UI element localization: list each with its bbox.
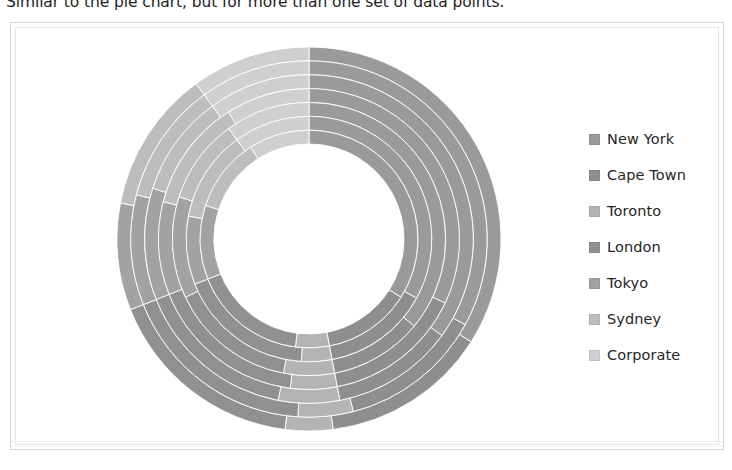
donut-segment[interactable]: [295, 332, 329, 348]
legend-item-label: Tokyo: [607, 275, 648, 291]
legend-item[interactable]: London: [589, 229, 719, 265]
donut-segment[interactable]: [301, 346, 332, 362]
legend-item[interactable]: Sydney: [589, 301, 719, 337]
legend-item[interactable]: Tokyo: [589, 265, 719, 301]
legend-item-label: New York: [607, 131, 674, 147]
chart-plot-area: New YorkCape TownTorontoLondonTokyoSydne…: [11, 23, 725, 451]
legend-item-label: Cape Town: [607, 167, 686, 183]
legend-swatch-icon: [589, 278, 600, 289]
figure-frame: New YorkCape TownTorontoLondonTokyoSydne…: [10, 22, 724, 450]
caption-text: Similar to the pie chart, but for more t…: [6, 0, 504, 11]
legend-swatch-icon: [589, 242, 600, 253]
donut-ring: [200, 130, 418, 348]
legend-swatch-icon: [589, 134, 600, 145]
donut-segment[interactable]: [285, 416, 333, 431]
legend-swatch-icon: [589, 350, 600, 361]
figure-caption: Similar to the pie chart, but for more t…: [6, 0, 726, 13]
legend-item-label: Corporate: [607, 347, 680, 363]
legend-swatch-icon: [589, 206, 600, 217]
legend-item[interactable]: Cape Town: [589, 157, 719, 193]
legend-swatch-icon: [589, 170, 600, 181]
multi-ring-doughnut-chart[interactable]: [109, 39, 509, 439]
legend-swatch-icon: [589, 314, 600, 325]
chart-legend: New YorkCape TownTorontoLondonTokyoSydne…: [589, 121, 719, 373]
legend-item[interactable]: New York: [589, 121, 719, 157]
donut-ring: [186, 116, 431, 361]
legend-item[interactable]: Corporate: [589, 337, 719, 373]
legend-item-label: Toronto: [607, 203, 661, 219]
legend-item-label: Sydney: [607, 311, 661, 327]
legend-item-label: London: [607, 239, 661, 255]
legend-item[interactable]: Toronto: [589, 193, 719, 229]
